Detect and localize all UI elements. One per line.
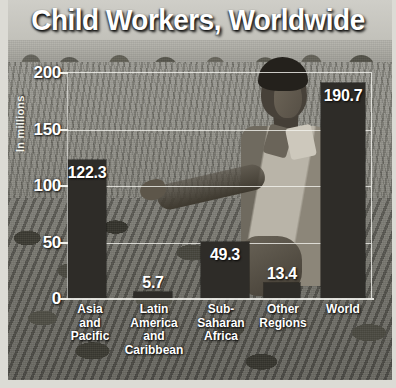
bar-value-label: 49.3 [210,246,240,264]
category-label-line: America [130,316,177,330]
infographic-chart: In millions 050100150200122.35.749.313.4… [0,0,396,388]
category-label-sub-saharan-africa: Sub-SaharanAfrica [190,303,252,344]
category-label-line: Asia [77,302,102,316]
bar-value-label: 13.4 [267,265,297,283]
x-axis-line [62,298,374,300]
bottom-border-strip [0,380,396,388]
category-label-latin-america-and-caribbean: LatinAmericaandCaribbean [122,303,186,357]
category-label-world: World [312,303,374,317]
category-label-line: Other [267,302,299,316]
category-label-line: and [79,316,100,330]
category-label-line: Pacific [71,329,110,343]
bar-value-label: 122.3 [68,164,107,182]
category-label-line: Saharan [197,316,244,330]
y-axis-tick-label: 200 [34,63,61,83]
category-label-line: Africa [204,329,238,343]
category-label-line: Latin [140,302,169,316]
y-axis-tick-mark [60,298,68,300]
category-label-line: and [143,329,164,343]
bar-other-regions[interactable]: 13.4 [264,283,300,298]
left-border-strip [0,0,8,388]
y-axis-tick-mark [60,72,68,74]
bar-world[interactable]: 190.7 [321,83,365,298]
category-label-other-regions: OtherRegions [252,303,314,330]
category-label-asia-and-pacific: AsiaandPacific [62,303,118,344]
page-title: Child Workers, Worldwide [14,3,382,37]
bar-asia-and-pacific[interactable]: 122.3 [68,160,106,298]
bar-sub-saharan-africa[interactable]: 49.3 [201,242,249,298]
bar-value-label: 190.7 [324,87,363,105]
category-label-line: Caribbean [125,343,184,357]
y-axis-tick-mark [60,185,68,187]
y-axis-tick-label: 50 [43,233,61,253]
y-axis-tick-mark [60,129,68,131]
right-border-strip [392,0,396,388]
y-axis-tick-label: 100 [34,176,61,196]
bar-value-label: 5.7 [142,274,163,292]
category-label-line: World [326,302,360,316]
y-axis-tick-label: 150 [34,120,61,140]
category-label-line: Regions [259,316,306,330]
category-label-line: Sub- [208,302,235,316]
plot-area: 050100150200122.35.749.313.4190.7 [68,72,372,298]
y-axis-label: In millions [14,95,26,152]
y-axis-tick-mark [60,242,68,244]
chart-overlay: In millions 050100150200122.35.749.313.4… [0,0,396,388]
